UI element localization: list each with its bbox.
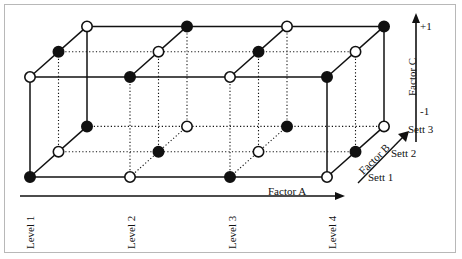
node-open	[182, 121, 192, 131]
cube-nodes	[25, 21, 389, 182]
node-open	[153, 47, 163, 57]
node-open	[282, 21, 292, 31]
node-filled	[153, 147, 163, 157]
node-open	[253, 147, 263, 157]
tick-plus-one: +1	[420, 21, 432, 32]
node-filled	[25, 172, 35, 182]
node-open	[379, 121, 389, 131]
node-filled	[282, 121, 292, 131]
tick-sett-2: Sett 2	[391, 148, 416, 159]
node-open	[322, 172, 332, 182]
tick-sett-3: Sett 3	[408, 124, 433, 135]
node-filled	[322, 72, 332, 82]
node-filled	[182, 21, 192, 31]
node-open	[225, 72, 235, 82]
tick-level-4: Level 4	[327, 216, 338, 249]
node-open	[350, 47, 360, 57]
node-filled	[225, 172, 235, 182]
node-open	[53, 147, 63, 157]
node-filled	[253, 47, 263, 57]
tick-level-3: Level 3	[227, 216, 238, 249]
tick-minus-one: -1	[420, 106, 429, 117]
node-open	[82, 21, 92, 31]
node-open	[25, 72, 35, 82]
figure-canvas: Factor C +1 -1 Factor A Level 1 Level 2 …	[0, 0, 462, 259]
tick-level-2: Level 2	[126, 216, 137, 249]
axis-label-factor-a: Factor A	[268, 186, 306, 197]
node-open	[125, 172, 135, 182]
tick-level-1: Level 1	[25, 216, 36, 249]
tick-sett-1: Sett 1	[368, 172, 393, 183]
node-filled	[350, 147, 360, 157]
node-filled	[82, 121, 92, 131]
axis-label-factor-c: Factor C	[407, 58, 418, 96]
node-filled	[125, 72, 135, 82]
node-filled	[379, 21, 389, 31]
node-filled	[53, 47, 63, 57]
cube-edges	[30, 26, 384, 177]
